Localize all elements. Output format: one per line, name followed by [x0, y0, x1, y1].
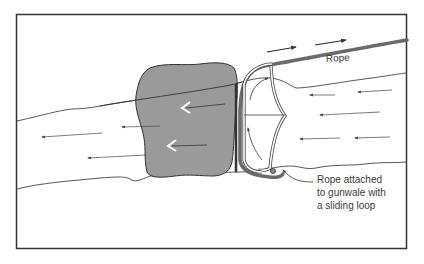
attachment-label-line3: a sliding loop: [317, 200, 376, 211]
diagram-canvas: Rope Rope attached to gunwale with a sli…: [0, 0, 424, 264]
attachment-label-line1: Rope attached: [317, 174, 382, 185]
attachment-label-line2: to gunwale with: [317, 187, 386, 198]
rock: [136, 63, 238, 177]
rope-label: Rope: [326, 52, 351, 64]
